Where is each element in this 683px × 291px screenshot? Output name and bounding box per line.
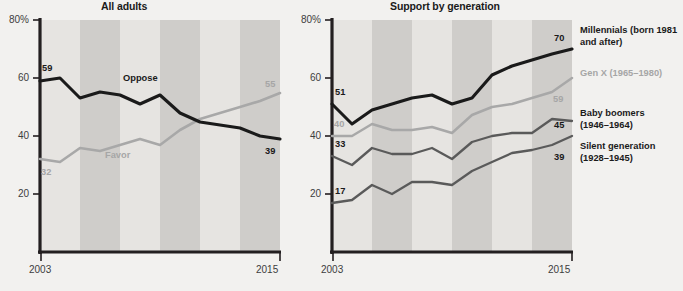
chart-panel-support-by-generation: Support by generation (290, 0, 683, 291)
x-tick-label-2003: 2003 (29, 264, 51, 275)
y-tick-label-60: 60 (292, 72, 321, 83)
legend-item-silent-generation: Silent generation (1928–1945) (580, 141, 655, 164)
value-label-boomers-start: 33 (335, 139, 345, 151)
legend-item-gen-x: Gen X (1965–1980) (580, 68, 662, 80)
legend-item-millennials: Millennials (born 1981 and after) (580, 25, 677, 48)
plot-area-all-adults (0, 0, 300, 291)
legend-item-baby-boomers: Baby boomers (1946–1964) (580, 108, 645, 131)
value-label-genx-end: 59 (553, 94, 563, 106)
value-label-oppose-end: 39 (265, 146, 275, 158)
x-tick-label-2003: 2003 (321, 264, 343, 275)
legend-item-millennials-line1: Millennials (born 1981 (580, 25, 677, 37)
chart-page: All adults (0, 0, 683, 291)
value-label-silent-start: 17 (335, 186, 345, 198)
x-tick-label-2015: 2015 (256, 264, 278, 275)
legend-item-baby-boomers-line2: (1946–1964) (580, 120, 645, 132)
y-tick-label-20: 20 (292, 188, 321, 199)
y-tick-label-80: 80% (292, 14, 321, 25)
value-label-millennials-end: 70 (554, 33, 564, 45)
series-label-favor: Favor (105, 150, 130, 162)
value-label-favor-start: 32 (41, 167, 51, 179)
legend-item-silent-generation-line2: (1928–1945) (580, 153, 655, 165)
chart-panel-all-adults: All adults (0, 0, 300, 291)
y-tick-label-40: 40 (2, 130, 29, 141)
series-label-oppose: Oppose (123, 73, 158, 85)
x-tick-label-2015: 2015 (548, 264, 570, 275)
value-label-genx-start: 40 (334, 119, 344, 131)
background-bands (40, 20, 280, 252)
value-label-millennials-start: 51 (335, 87, 345, 99)
value-label-silent-end: 39 (554, 152, 564, 164)
y-tick-label-80: 80% (2, 14, 29, 25)
value-label-oppose-start: 59 (42, 63, 52, 75)
background-bands (332, 20, 572, 252)
legend-item-baby-boomers-line1: Baby boomers (580, 108, 645, 120)
y-tick-label-60: 60 (2, 72, 29, 83)
legend-item-millennials-line2: and after) (580, 37, 677, 49)
y-tick-label-40: 40 (292, 130, 321, 141)
legend-item-silent-generation-line1: Silent generation (580, 141, 655, 153)
value-label-favor-end: 55 (265, 79, 275, 91)
legend-item-gen-x-line1: Gen X (1965–1980) (580, 68, 662, 80)
y-tick-label-20: 20 (2, 188, 29, 199)
value-label-boomers-end: 45 (554, 120, 564, 132)
